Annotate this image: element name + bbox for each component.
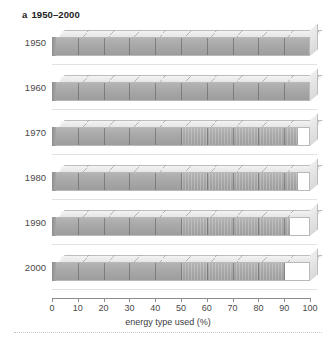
bar-segment-lines	[53, 83, 309, 100]
bar-segment-lines	[53, 128, 309, 145]
year-label: 2000	[8, 262, 46, 273]
year-label: 1980	[8, 172, 46, 183]
bar-left-edge	[52, 127, 56, 146]
bar-segment-lines	[53, 173, 309, 190]
x-axis-tick	[52, 298, 53, 302]
x-axis-tick	[129, 298, 130, 302]
bar-front-face	[52, 82, 310, 101]
bar-row: 1950	[0, 26, 336, 58]
x-axis-tick-label: 30	[124, 303, 134, 313]
x-axis-tick-label: 0	[49, 303, 54, 313]
bar-top-segment-lines	[58, 120, 322, 127]
bar-front-face	[52, 127, 310, 146]
figure-panel-a: a1950–2000 195019601970198019902000 ener…	[0, 0, 336, 339]
row-guide-line	[52, 199, 317, 200]
panel-title-text: 1950–2000	[31, 9, 79, 20]
bar-3d	[52, 255, 310, 281]
bar-front-face	[52, 262, 310, 281]
x-axis-tick-label: 10	[73, 303, 83, 313]
bar-3d	[52, 75, 310, 101]
year-label: 1970	[8, 127, 46, 138]
bar-top-segment-lines	[58, 165, 322, 172]
x-axis-tick-label: 100	[302, 303, 317, 313]
row-guide-line	[52, 244, 317, 245]
panel-letter: a	[22, 9, 27, 20]
bar-left-edge	[52, 172, 56, 191]
row-guide-line	[52, 109, 317, 110]
bar-top-segment-lines	[58, 30, 322, 37]
x-axis-tick-label: 50	[176, 303, 186, 313]
x-axis-tick	[181, 298, 182, 302]
bar-3d	[52, 210, 310, 236]
x-axis-tick-label: 20	[99, 303, 109, 313]
year-label: 1990	[8, 217, 46, 228]
bar-right-cap	[310, 23, 318, 56]
bar-left-edge	[52, 262, 56, 281]
bar-front-face	[52, 37, 310, 56]
bar-left-edge	[52, 37, 56, 56]
panel-title: a1950–2000	[22, 9, 80, 20]
bar-right-cap	[310, 68, 318, 101]
bar-left-edge	[52, 217, 56, 236]
figure-bottom-divider	[14, 332, 322, 333]
bar-row: 2000	[0, 251, 336, 283]
x-axis-title: energy type used (%)	[0, 317, 336, 327]
bar-right-cap	[310, 203, 318, 236]
bar-right-cap	[310, 248, 318, 281]
x-axis-tick	[233, 298, 234, 302]
year-label: 1960	[8, 82, 46, 93]
x-axis-tick	[284, 298, 285, 302]
x-axis-tick	[155, 298, 156, 302]
bar-right-cap	[310, 158, 318, 191]
bar-top-segment-lines	[58, 75, 322, 82]
x-axis-tick-label: 80	[253, 303, 263, 313]
bar-3d	[52, 120, 310, 146]
x-axis-tick	[78, 298, 79, 302]
bar-row: 1960	[0, 71, 336, 103]
bar-top-segment-lines	[58, 255, 322, 262]
bar-top-segment-lines	[58, 210, 322, 217]
bar-segment-lines	[53, 218, 309, 235]
row-guide-line	[52, 64, 317, 65]
x-axis-tick	[310, 298, 311, 302]
row-guide-line	[52, 154, 317, 155]
x-axis-tick	[104, 298, 105, 302]
bar-row: 1970	[0, 116, 336, 148]
bar-row: 1990	[0, 206, 336, 238]
bar-3d	[52, 30, 310, 56]
bar-3d	[52, 165, 310, 191]
row-guide-line	[52, 289, 317, 290]
bar-segment-lines	[53, 263, 309, 280]
x-axis-tick-label: 90	[279, 303, 289, 313]
plot-area: 195019601970198019902000	[0, 24, 336, 302]
x-axis-tick-label: 60	[202, 303, 212, 313]
bar-segment-lines	[53, 38, 309, 55]
bar-front-face	[52, 217, 310, 236]
bar-left-edge	[52, 82, 56, 101]
bar-right-cap	[310, 113, 318, 146]
x-axis-tick	[207, 298, 208, 302]
bar-front-face	[52, 172, 310, 191]
year-label: 1950	[8, 37, 46, 48]
x-axis-tick-label: 40	[150, 303, 160, 313]
bar-row: 1980	[0, 161, 336, 193]
x-axis-tick	[258, 298, 259, 302]
x-axis-tick-label: 70	[228, 303, 238, 313]
